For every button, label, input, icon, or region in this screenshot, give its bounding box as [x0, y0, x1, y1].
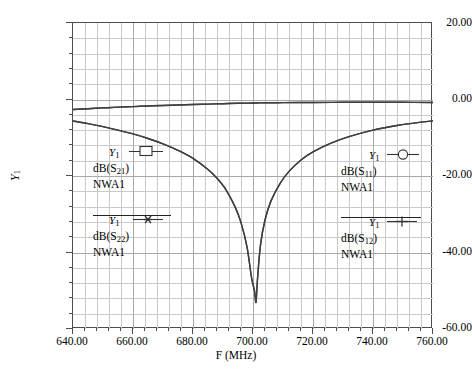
legend-s11-instrument: NWA1 — [341, 181, 417, 194]
x-axis-title: F (MHz) — [0, 349, 472, 361]
plus-marker — [387, 215, 417, 231]
legend-s12-instrument: NWA1 — [341, 248, 421, 261]
y-axis-title-sub: 1 — [12, 170, 22, 174]
legend-s11-trace: dB(S11) — [341, 165, 417, 181]
legend-s21-instrument: NWA1 — [93, 178, 169, 191]
legend-s22[interactable]: Y1 dB(S22) NWA1 — [93, 215, 171, 259]
curve-db-s22-nwa1 — [73, 102, 433, 109]
legend-s12-axis: Y1 — [369, 216, 379, 231]
chart-figure: Y1 20.00 0.00 -20.00 -40.00 -60.00 640.0… — [0, 0, 472, 373]
legend-s12-trace: dB(S12) — [341, 232, 421, 248]
legend-s21-axis: Y1 — [109, 146, 119, 161]
asterisk-marker — [133, 213, 163, 229]
y-axis-title: Y1 — [8, 163, 23, 189]
legend-s11[interactable]: Y1 dB(S11) NWA1 — [341, 151, 417, 194]
circle-marker — [387, 148, 419, 164]
legend-s22-axis: Y1 — [109, 214, 119, 229]
plot-area: Y1 dB(S21) NWA1 Y1 — [72, 22, 432, 328]
legend-s12[interactable]: Y1 dB(S12) NWA1 — [341, 217, 421, 261]
y-axis-title-base: Y — [8, 174, 22, 181]
legend-s21[interactable]: Y1 dB(S21) NWA1 — [93, 148, 169, 191]
legend-s11-axis: Y1 — [369, 149, 379, 164]
legend-s22-trace: dB(S22) — [93, 230, 171, 246]
legend-s22-instrument: NWA1 — [93, 246, 171, 259]
x-tick-label-760: 760.00 — [397, 336, 467, 348]
square-marker — [129, 145, 163, 161]
legend-s21-trace: dB(S21) — [93, 162, 169, 178]
